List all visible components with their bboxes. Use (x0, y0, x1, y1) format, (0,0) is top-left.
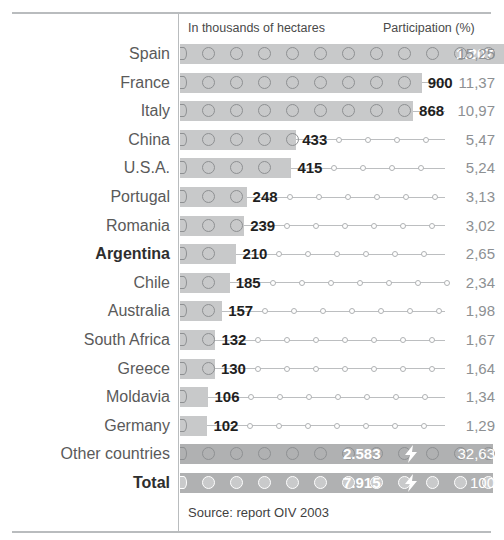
trail-dot (306, 394, 312, 400)
row-value: 210 (242, 240, 267, 268)
chart-row: Germany1021,29 (0, 412, 503, 440)
chart-row: Australia1571,98 (0, 297, 503, 325)
trail-dot (363, 423, 369, 429)
chart-row: Portugal2483,13 (0, 183, 503, 211)
trail-dot (262, 308, 268, 314)
row-label: Italy (0, 97, 170, 125)
bar-marker (180, 47, 187, 60)
row-label: Total (0, 469, 170, 497)
row-percent: 1,67 (425, 326, 495, 354)
top-rule (12, 12, 491, 14)
column-header-units: In thousands of hectares (188, 21, 325, 35)
row-percent: 1,29 (425, 412, 495, 440)
row-label: Romania (0, 212, 170, 240)
bar-marker (202, 47, 215, 60)
trail-dot (371, 337, 377, 343)
trail-dot (371, 223, 377, 229)
row-percent: 100 (425, 469, 495, 497)
bar-marker (180, 419, 187, 432)
bar-marker (342, 76, 355, 89)
row-percent: 3,02 (425, 212, 495, 240)
trail-dot (284, 223, 290, 229)
trail-dot (284, 366, 290, 372)
trail-dot (316, 194, 322, 200)
trail-dot (418, 165, 424, 171)
row-percent: 32,63 (425, 440, 495, 468)
bar-marker (370, 104, 383, 117)
bar-marker (230, 47, 243, 60)
trail-dot (345, 194, 351, 200)
row-percent: 1,34 (425, 383, 495, 411)
row-label: Greece (0, 355, 170, 383)
bar-marker (180, 190, 187, 203)
trail-dot (378, 308, 384, 314)
lightning-bolt-icon (404, 474, 418, 492)
bar-marker (230, 104, 243, 117)
chart-row: Moldavia1061,34 (0, 383, 503, 411)
row-value: 7.915 (343, 469, 381, 497)
trail-dot (313, 223, 319, 229)
chart-row: Chile1852,34 (0, 269, 503, 297)
bar-marker (202, 133, 215, 146)
trail-dot (364, 394, 370, 400)
trail-dot (357, 280, 363, 286)
chart-row: U.S.A.4155,24 (0, 154, 503, 182)
row-value: 130 (221, 355, 246, 383)
bar-marker (202, 104, 215, 117)
trail-dot (403, 194, 409, 200)
trail-dot (336, 137, 342, 143)
source-note: Source: report OIV 2003 (188, 505, 329, 520)
row-label: France (0, 69, 170, 97)
bar-marker (314, 104, 327, 117)
bar-marker (230, 190, 243, 203)
trail-dot (313, 337, 319, 343)
bar-marker (258, 47, 271, 60)
row-value: 433 (302, 126, 327, 154)
trail-dot (342, 223, 348, 229)
trail-dot (334, 251, 340, 257)
trail-dot (299, 280, 305, 286)
trail-dot (407, 308, 413, 314)
bar-marker (314, 447, 327, 460)
trail-dot (276, 423, 282, 429)
bar-marker (258, 476, 271, 489)
row-label: Australia (0, 297, 170, 325)
row-percent: 2,65 (425, 240, 495, 268)
chart-row: Total7.915100 (0, 469, 503, 497)
trail-dot (365, 137, 371, 143)
bar-marker (180, 476, 187, 489)
row-percent: 5,24 (425, 154, 495, 182)
bar-marker (202, 276, 215, 289)
row-percent: 11,37 (425, 69, 495, 97)
bar-marker (314, 76, 327, 89)
trail-dot (349, 308, 355, 314)
row-value: 248 (253, 183, 278, 211)
trail-dot (313, 366, 319, 372)
trail-dot (389, 165, 395, 171)
row-value: 132 (221, 326, 246, 354)
column-header-participation: Participation (%) (383, 21, 475, 35)
row-value: 415 (297, 154, 322, 182)
chart-row: Romania2393,02 (0, 212, 503, 240)
row-label: Chile (0, 269, 170, 297)
chart-row: France90011,37 (0, 69, 503, 97)
bar-marker (286, 476, 299, 489)
row-value: 157 (228, 297, 253, 325)
trail-dot (287, 194, 293, 200)
row-label: China (0, 126, 170, 154)
bar-marker (202, 333, 215, 346)
bar-marker (258, 161, 271, 174)
trail-dot (320, 308, 326, 314)
trail-dot (386, 280, 392, 286)
bar-marker (202, 247, 215, 260)
chart-row: Argentina2102,65 (0, 240, 503, 268)
bar-marker (286, 447, 299, 460)
bar-marker (370, 47, 383, 60)
row-label: Moldavia (0, 383, 170, 411)
trail-dot (400, 223, 406, 229)
bar-marker (398, 47, 411, 60)
trail-dot (248, 394, 254, 400)
row-label: U.S.A. (0, 154, 170, 182)
bar-marker (202, 362, 215, 375)
bar-marker (180, 133, 187, 146)
